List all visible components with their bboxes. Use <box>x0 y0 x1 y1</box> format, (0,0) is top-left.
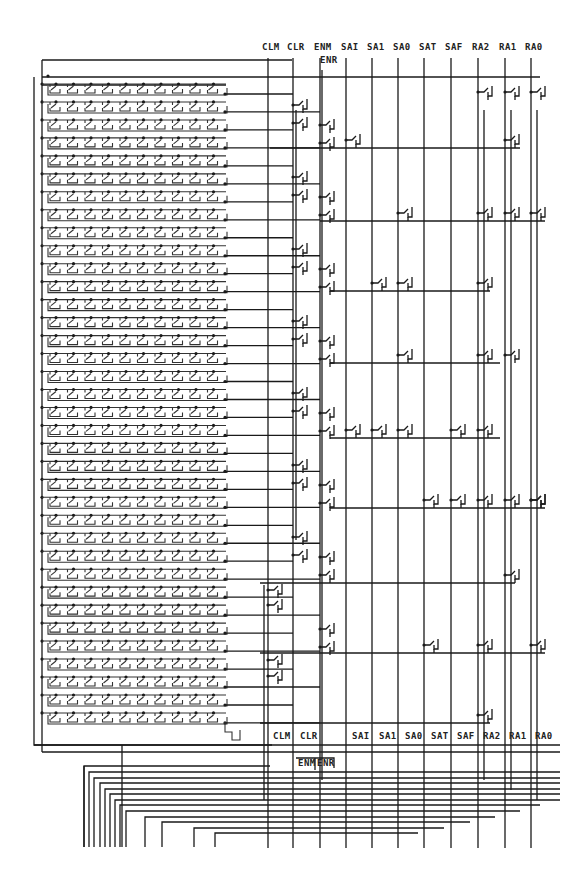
top-label-enm: ENM <box>314 42 332 52</box>
top-label-enr: ENR <box>320 55 338 65</box>
bottom-label-saf: SAF <box>457 731 475 741</box>
top-label-saf: SAF <box>445 42 463 52</box>
bottom-label-clm: CLM <box>273 731 291 741</box>
relay-memory-diagram: CLMCLRENMSAISA1SA0SATSAFRA2RA1RA0ENR CLM… <box>0 0 587 884</box>
bottom-label-ra2: RA2 <box>483 731 501 741</box>
top-signal-labels: CLMCLRENMSAISA1SA0SATSAFRA2RA1RA0ENR <box>262 42 543 65</box>
bottom-label-sai: SAI <box>352 731 370 741</box>
top-label-sa0: SA0 <box>393 42 411 52</box>
top-label-ra2: RA2 <box>472 42 490 52</box>
bottom-label-sat: SAT <box>431 731 449 741</box>
top-label-ra0: RA0 <box>525 42 543 52</box>
decoder-relay-contacts <box>260 86 545 723</box>
bottom-label-ra0: RA0 <box>535 731 553 741</box>
top-label-sa1: SA1 <box>367 42 385 52</box>
top-label-sat: SAT <box>419 42 437 52</box>
top-label-clr: CLR <box>287 42 305 52</box>
top-label-clm: CLM <box>262 42 280 52</box>
relay-cell-array <box>40 82 320 740</box>
bottom-label-enr: ENR <box>317 758 335 768</box>
bottom-label-sa1: SA1 <box>379 731 397 741</box>
bottom-label-clr: CLR <box>300 731 318 741</box>
vertical-buses <box>264 58 537 848</box>
bottom-label-sa0: SA0 <box>405 731 423 741</box>
top-label-ra1: RA1 <box>499 42 517 52</box>
top-label-sai: SAI <box>341 42 359 52</box>
bottom-label-ra1: RA1 <box>509 731 527 741</box>
bottom-label-enm: ENM <box>298 758 316 768</box>
